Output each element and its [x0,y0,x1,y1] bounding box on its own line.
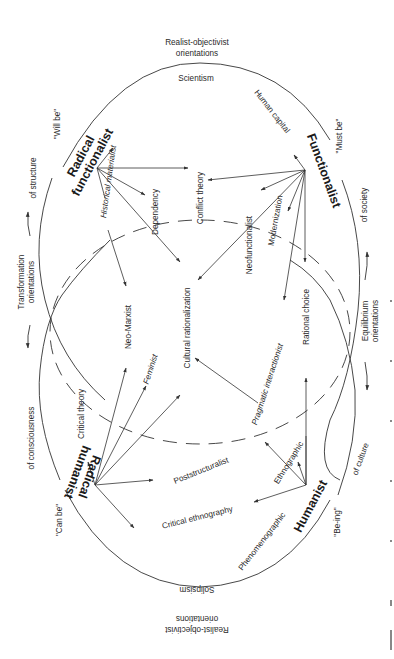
arc-label-will-be: "Will be" [53,109,62,139]
arc-label-of-society: of society [360,187,369,222]
edge-rh-feminist [95,386,146,485]
theory-pragmatic-interactionist: Pragmatic interactionist [250,342,285,426]
theory-cultural-rationalization: Cultural rationalization [183,287,192,368]
lower-ellipse-bottom [65,490,330,587]
edge-rh-cultural [95,395,180,485]
top-orientation-label-1: Realist-objectivist [165,38,229,47]
arc-label-of-culture: of culture [351,441,371,476]
theory-dependency: Dependency [151,188,160,235]
theory-phenomenographic: Phenomenographic [237,511,288,573]
theory-modernization: Modernization [267,194,285,247]
lower-ellipse-left-side [39,240,110,480]
page-edge-marks [388,0,394,659]
bottom-orientation-label-1: Realist-objectivist [164,625,228,634]
theory-neofunctionalist: Neofunctionalist [245,215,254,274]
left-orientation-label-1: Transformation [17,254,26,309]
edge-pragmatic-cultural [195,358,258,403]
theory-neo-marxist: Neo-Marxist [124,304,133,349]
arrow-transformation-down [28,325,30,348]
arc-label-of-consciousness: of consciousness [27,407,36,470]
pole-scientism: Scientism [178,74,214,83]
pole-solipsism: Solipsism [179,585,214,594]
theory-conflict-theory: Conflict theory [196,171,205,224]
arc-label-must-be: "Must be" [335,118,344,153]
edge-f-humancapital [294,155,305,170]
theory-poststructuralist: Poststructuralist [172,455,230,485]
theory-feminist: Feminist [142,352,160,385]
edge-h-critical-ethnography [254,485,306,502]
theory-rational-choice: Rational choice [302,289,311,345]
upper-ellipse-left-side [39,178,105,400]
top-orientation-label-2: orientations [176,49,218,58]
edge-h-ethnographic [298,462,306,485]
arrow-equilibrium-up [365,252,367,280]
paradigm-humanist: Humanist [291,477,330,535]
edge-rh-poststructuralist [95,480,153,485]
bottom-orientation-label-2: orientations [176,614,218,623]
arrow-equilibrium-down [365,362,367,390]
theory-critical-ethnography: Critical ethnography [161,504,235,531]
theory-critical-theory: Critical theory [77,388,86,439]
arrow-transformation-up [28,212,30,236]
edge-rh-critical-ethnography [95,485,134,528]
edge-f-pragmatic [284,170,305,300]
theory-human-capital: Human capital [252,88,291,135]
edge-f-neofunctionalist [261,170,305,190]
arc-label-be-ing: "Be-ing" [333,507,342,537]
paradigm-diagram: Realist-objectivist orientations Scienti… [0,0,394,659]
arc-label-of-structure: of structure [29,157,38,198]
left-orientation-label-2: orientations [27,261,36,303]
right-orientation-label-2: orientations [371,300,380,342]
right-orientation-label-1: Equilibrium [361,301,370,342]
edge-f-conflict [208,170,305,180]
arc-label-can-be: "Can be" [55,504,64,536]
